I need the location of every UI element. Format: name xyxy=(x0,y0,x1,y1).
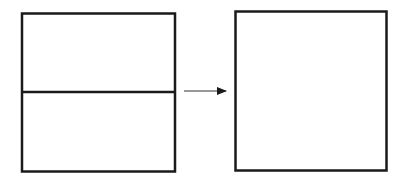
right-square xyxy=(236,12,387,171)
left-divided-rectangle xyxy=(22,14,175,172)
transformation-diagram xyxy=(0,0,404,185)
right-square-outline xyxy=(236,12,387,171)
